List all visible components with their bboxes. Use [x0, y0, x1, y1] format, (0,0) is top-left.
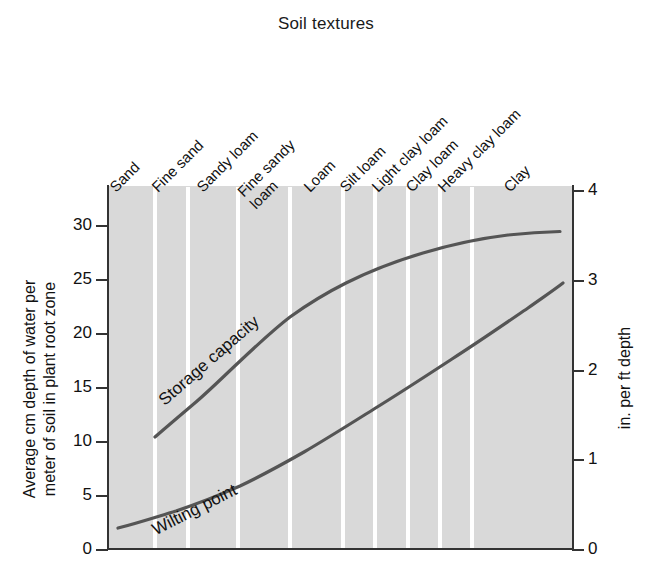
chart-title: Soil textures	[0, 14, 652, 34]
tick-right-2	[572, 370, 584, 372]
wilting-point-curve	[118, 283, 563, 528]
tick-left-5	[96, 495, 108, 497]
curves-layer	[108, 186, 573, 549]
tick-left-0	[96, 549, 108, 551]
tick-left-10	[96, 441, 108, 443]
tick-right-4	[572, 190, 584, 192]
y-axis-right-label: in. per ft depth	[616, 228, 634, 528]
tick-right-1	[572, 459, 584, 461]
storage-capacity-curve	[155, 232, 560, 438]
y-axis-left-label-line2: meter of soil in plant root zone	[40, 209, 60, 569]
tick-left-15	[96, 387, 108, 389]
tick-left-25	[96, 279, 108, 281]
ytick-label-right-0: 0	[588, 539, 634, 559]
x-axis-line	[107, 548, 574, 550]
tick-right-0	[572, 549, 584, 551]
chart-root: Soil textures 0 5 10 15 20 25 30 0 1 2 3…	[0, 0, 652, 582]
tick-left-20	[96, 333, 108, 335]
ytick-label-right-4: 4	[588, 180, 634, 200]
y-axis-left-label: Average cm depth of water per meter of s…	[20, 209, 60, 569]
tick-left-30	[96, 225, 108, 227]
y-axis-left-label-line1: Average cm depth of water per	[20, 209, 40, 569]
tick-right-3	[572, 280, 584, 282]
y-axis-right-line	[572, 185, 574, 550]
